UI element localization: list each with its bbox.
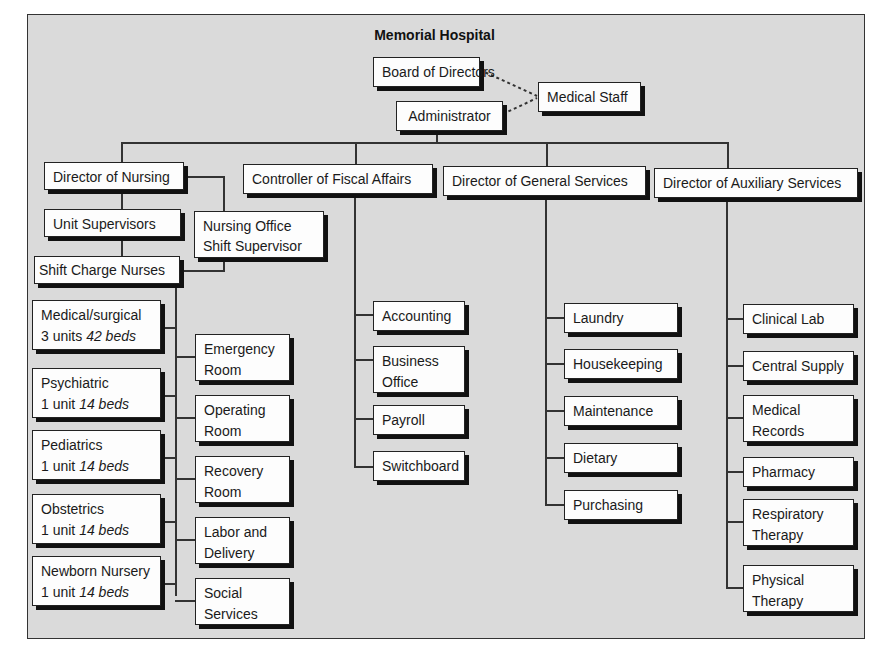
ward-box: Newborn Nursery1 unit 14 beds [32,556,161,606]
general-box: Dietary [564,443,678,473]
general-box: Laundry [564,303,678,333]
board-of-directors-box: Board of Directors [373,57,480,87]
medical-staff-box: Medical Staff [538,82,641,112]
ward-box: Pediatrics1 unit 14 beds [32,430,161,480]
fiscal-box: Switchboard [373,451,465,481]
fiscal-box: Payroll [373,405,465,435]
auxiliary-box: PhysicalTherapy [743,565,854,612]
service-box: Labor andDelivery [195,517,290,564]
service-box: RecoveryRoom [195,456,290,503]
ward-box: Medical/surgical3 units 42 beds [32,300,161,350]
director-general-box: Director of General Services [443,166,646,196]
administrator-box: Administrator [396,101,503,131]
auxiliary-box: Central Supply [743,351,854,381]
auxiliary-box: RespiratoryTherapy [743,499,854,546]
service-box: SocialServices [195,578,290,625]
nursing-office-box: Nursing OfficeShift Supervisor [194,211,324,258]
ward-box: Obstetrics1 unit 14 beds [32,494,161,544]
service-box: EmergencyRoom [195,334,290,381]
general-box: Purchasing [564,490,678,520]
shift-charge-nurses-box: Shift Charge Nurses [34,256,180,284]
general-box: Housekeeping [564,349,678,379]
service-box: OperatingRoom [195,395,290,442]
director-auxiliary-box: Director of Auxiliary Services [654,168,858,198]
auxiliary-box: MedicalRecords [743,395,854,442]
unit-supervisors-box: Unit Supervisors [44,209,181,237]
director-nursing-box: Director of Nursing [44,162,184,190]
ward-box: Psychiatric1 unit 14 beds [32,368,161,418]
controller-fiscal-box: Controller of Fiscal Affairs [243,164,433,194]
general-box: Maintenance [564,396,678,426]
fiscal-box: BusinessOffice [373,346,465,393]
fiscal-box: Accounting [373,301,465,331]
auxiliary-box: Pharmacy [743,457,854,487]
auxiliary-box: Clinical Lab [743,304,854,334]
